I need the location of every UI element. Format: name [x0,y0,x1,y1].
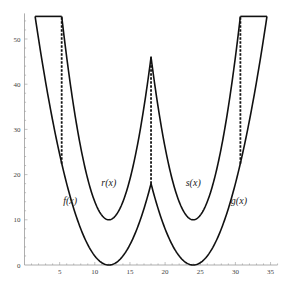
x-tick-label: 20 [162,268,170,276]
y-tick-label: 30 [14,126,22,134]
curve-label-r: r(x) [101,177,117,189]
lower-curve-f-g [35,16,267,265]
axes: 510152025303501020304050 [14,13,278,276]
x-tick-label: 5 [58,268,62,276]
chart: 510152025303501020304050 f(x)r(x)s(x)g(x… [0,0,291,289]
dashed-lines [62,16,241,183]
y-tick-label: 0 [17,262,21,270]
x-tick-label: 10 [91,268,99,276]
y-tick-label: 50 [14,36,22,44]
curves [35,16,267,265]
y-tick-label: 40 [14,81,22,89]
x-tick-label: 25 [197,268,205,276]
curve-label-s: s(x) [186,177,202,189]
y-tick-label: 20 [14,171,22,179]
curve-label-g: g(x) [231,195,248,207]
curve-label-f: f(x) [63,195,78,207]
x-tick-label: 35 [267,268,275,276]
x-tick-label: 30 [232,268,240,276]
y-tick-label: 10 [14,216,22,224]
x-tick-label: 15 [126,268,134,276]
